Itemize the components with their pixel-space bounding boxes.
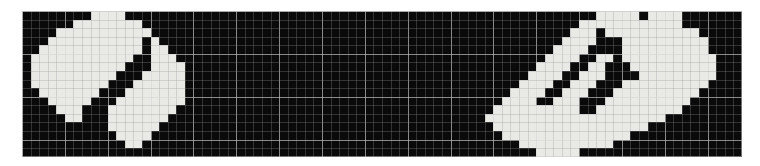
page-title: Pixelated binary mosaic — [0, 21, 1, 22]
pixel-cell — [690, 45, 699, 54]
pixel-cell — [699, 71, 708, 80]
pixel-cell — [605, 20, 614, 29]
pixel-cell — [168, 62, 177, 71]
pixel-cell — [168, 105, 177, 114]
pixel-cell — [596, 131, 605, 140]
pixel-cell — [570, 80, 579, 89]
pixel-cell — [108, 71, 117, 80]
pixel-cell — [91, 20, 100, 29]
pixel-cell — [699, 80, 708, 89]
minor-gridline-vertical — [253, 11, 254, 157]
pixel-cell — [690, 71, 699, 80]
pixel-cell — [673, 20, 682, 29]
pixel-cell — [151, 114, 160, 123]
pixel-cell — [639, 45, 648, 54]
minor-gridline-vertical — [245, 11, 246, 157]
pixel-cell — [56, 105, 65, 114]
minor-gridline-vertical — [356, 11, 357, 157]
minor-gridline-vertical — [202, 11, 203, 157]
pixel-cell — [630, 105, 639, 114]
pixel-cell — [545, 80, 554, 89]
major-gridline-vertical — [451, 11, 452, 157]
pixel-cell — [91, 80, 100, 89]
pixel-cell — [519, 122, 528, 131]
pixel-cell — [48, 80, 57, 89]
pixel-cell — [613, 28, 622, 37]
pixel-cell — [605, 140, 614, 149]
pixel-cell — [639, 80, 648, 89]
pixel-cell — [65, 105, 74, 114]
pixel-cell — [562, 148, 571, 157]
pixel-cell — [673, 97, 682, 106]
pixel-cell — [656, 97, 665, 106]
pixel-cell — [570, 97, 579, 106]
pixel-cell — [159, 97, 168, 106]
pixel-cell — [613, 122, 622, 131]
pixel-cell — [596, 122, 605, 131]
pixel-cell — [545, 54, 554, 63]
pixel-cell — [39, 62, 48, 71]
pixel-cell — [493, 114, 502, 123]
pixel-cell — [159, 45, 168, 54]
pixel-cell — [73, 80, 82, 89]
pixel-cell — [553, 131, 562, 140]
pixel-cell — [579, 140, 588, 149]
pixel-cell — [639, 114, 648, 123]
pixel-cell — [570, 122, 579, 131]
pixel-cell — [553, 54, 562, 63]
pixel-cell — [648, 88, 657, 97]
pixel-cell — [570, 88, 579, 97]
pixel-cell — [510, 105, 519, 114]
minor-gridline-vertical — [219, 11, 220, 157]
minor-gridline-vertical — [733, 11, 734, 157]
pixel-cell — [656, 114, 665, 123]
pixel-cell — [125, 114, 134, 123]
pixel-cell — [108, 105, 117, 114]
pixel-cell — [48, 45, 57, 54]
pixel-cell — [108, 54, 117, 63]
pixel-cell — [510, 114, 519, 123]
pixel-cell — [48, 97, 57, 106]
pixel-cell — [682, 88, 691, 97]
pixel-cell — [630, 114, 639, 123]
pixel-cell — [536, 114, 545, 123]
pixel-cell — [502, 122, 511, 131]
pixel-cell — [125, 28, 134, 37]
pixel-cell — [56, 80, 65, 89]
pixel-cell — [596, 140, 605, 149]
pixel-cell — [690, 80, 699, 89]
pixel-cell — [142, 114, 151, 123]
pixel-cell — [639, 62, 648, 71]
pixel-cell — [579, 88, 588, 97]
pixel-cell — [142, 122, 151, 131]
pixel-cell — [699, 45, 708, 54]
pixel-cell — [665, 11, 674, 20]
pixel-grid[interactable] — [22, 11, 742, 157]
pixel-cell — [82, 37, 91, 46]
pixel-cell — [151, 54, 160, 63]
pixel-cell — [673, 80, 682, 89]
minor-gridline-vertical — [433, 11, 434, 157]
pixel-cell — [133, 45, 142, 54]
pixel-cell — [673, 28, 682, 37]
pixel-cell — [82, 54, 91, 63]
pixel-cell — [519, 105, 528, 114]
pixel-cell — [116, 11, 125, 20]
pixel-cell — [56, 62, 65, 71]
pixel-cell — [699, 62, 708, 71]
pixel-cell — [639, 20, 648, 29]
pixel-cell — [56, 45, 65, 54]
pixel-cell — [708, 62, 717, 71]
pixel-cell — [553, 105, 562, 114]
major-gridline-vertical — [493, 11, 494, 157]
pixel-cell — [82, 71, 91, 80]
pixel-cell — [519, 97, 528, 106]
pixel-cell — [108, 62, 117, 71]
pixel-cell — [630, 11, 639, 20]
pixel-cell — [39, 80, 48, 89]
pixel-cell — [622, 114, 631, 123]
minor-gridline-vertical — [391, 11, 392, 157]
pixel-cell — [570, 54, 579, 63]
pixel-cell — [82, 45, 91, 54]
pixel-cell — [622, 131, 631, 140]
